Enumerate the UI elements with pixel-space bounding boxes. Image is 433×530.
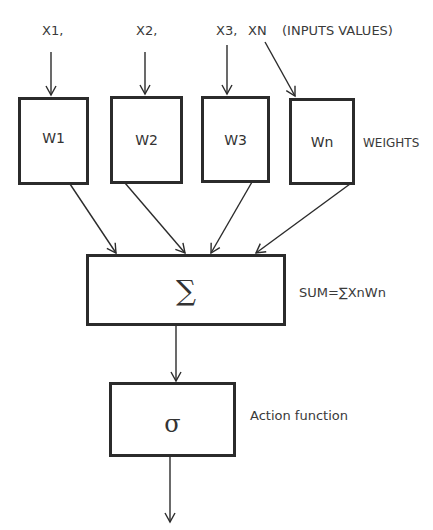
activation-node: σ [109, 382, 236, 457]
arrow-w1-to-sum [70, 184, 116, 253]
weight-label-w2: W2 [135, 132, 158, 148]
arrow-w3-to-sum [211, 182, 252, 253]
weight-box-wn: Wn [289, 98, 355, 185]
weight-label-w3: W3 [224, 132, 247, 148]
activation-caption: Action function [250, 409, 348, 422]
input-label-x1: X1, [42, 24, 63, 37]
arrow-xn-to-wn [265, 42, 295, 96]
weight-box-w3: W3 [201, 96, 270, 183]
inputs-caption: (INPUTS VALUES) [282, 24, 393, 37]
weight-label-wn: Wn [311, 134, 334, 150]
weight-box-w1: W1 [18, 97, 89, 185]
weight-label-w1: W1 [42, 130, 65, 146]
sum-node: ∑ [86, 254, 286, 326]
weight-box-w2: W2 [110, 96, 183, 184]
weights-caption: WEIGHTS [363, 137, 419, 149]
input-label-xn: XN [248, 24, 267, 37]
input-label-x2: X2, [136, 24, 157, 37]
sigma-sum-icon: ∑ [176, 274, 196, 307]
sigma-activation-icon: σ [164, 410, 180, 438]
sum-caption: SUM=∑XnWn [299, 286, 386, 299]
arrow-wn-to-sum [256, 184, 350, 253]
input-label-x3: X3, [216, 24, 237, 37]
arrow-w2-to-sum [125, 183, 185, 253]
